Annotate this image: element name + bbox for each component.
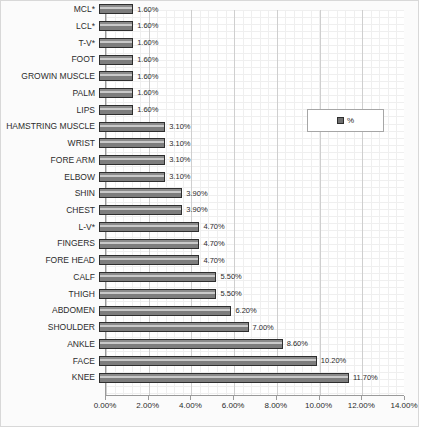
bar-row: CHEST3.90% bbox=[1, 202, 420, 219]
bar-row: FORE ARM3.10% bbox=[1, 152, 420, 169]
bar-zone: 3.90% bbox=[99, 202, 416, 219]
bar-zone: 8.60% bbox=[99, 336, 416, 353]
bar[interactable] bbox=[99, 322, 249, 332]
bar[interactable] bbox=[99, 339, 283, 349]
category-label: KNEE bbox=[1, 373, 99, 382]
bar-value-label: 5.50% bbox=[220, 273, 241, 281]
bar-zone: 3.10% bbox=[99, 135, 416, 152]
x-tick-labels: 0.00%2.00%4.00%6.00%8.00%10.00%12.00%14.… bbox=[1, 402, 420, 416]
bar-row: KNEE11.70% bbox=[1, 369, 420, 386]
category-label: CHEST bbox=[1, 206, 99, 215]
bar[interactable] bbox=[99, 373, 349, 383]
category-label: HAMSTRING MUSCLE bbox=[1, 122, 99, 131]
bar-zone: 1.60% bbox=[99, 85, 416, 102]
x-tick-label: 10.00% bbox=[305, 402, 332, 410]
bar[interactable] bbox=[99, 21, 133, 31]
bar-value-label: 1.60% bbox=[137, 106, 158, 114]
x-tick bbox=[105, 396, 106, 400]
bar-zone: 5.50% bbox=[99, 269, 416, 286]
bar-value-label: 4.70% bbox=[203, 240, 224, 248]
x-tick bbox=[190, 396, 191, 400]
bar-row: PALM1.60% bbox=[1, 85, 420, 102]
legend-swatch-icon bbox=[337, 117, 344, 124]
bar-value-label: 10.20% bbox=[321, 357, 346, 365]
bar-row: T-V*1.60% bbox=[1, 34, 420, 51]
bar[interactable] bbox=[99, 306, 231, 316]
bar[interactable] bbox=[99, 38, 133, 48]
bar-zone: 4.70% bbox=[99, 252, 416, 269]
x-tick bbox=[233, 396, 234, 400]
x-tick-label: 12.00% bbox=[348, 402, 375, 410]
x-tick-label: 0.00% bbox=[94, 402, 117, 410]
bar-zone: 1.60% bbox=[99, 34, 416, 51]
x-tick-label: 6.00% bbox=[222, 402, 245, 410]
category-label: FOOT bbox=[1, 55, 99, 64]
bar[interactable] bbox=[99, 105, 133, 115]
bar[interactable] bbox=[99, 188, 182, 198]
bar-value-label: 1.60% bbox=[137, 73, 158, 81]
bar-value-label: 6.20% bbox=[235, 307, 256, 315]
category-label: ABDOMEN bbox=[1, 306, 99, 315]
bar[interactable] bbox=[99, 138, 165, 148]
category-label: WRIST bbox=[1, 139, 99, 148]
bar-value-label: 7.00% bbox=[253, 324, 274, 332]
category-label: GROWIN MUSCLE bbox=[1, 72, 99, 81]
bar[interactable] bbox=[99, 356, 317, 366]
bar[interactable] bbox=[99, 255, 199, 265]
bar-zone: 6.20% bbox=[99, 302, 416, 319]
bar-value-label: 4.70% bbox=[203, 223, 224, 231]
bar-value-label: 3.90% bbox=[186, 206, 207, 214]
bar-row: FACE10.20% bbox=[1, 353, 420, 370]
bar[interactable] bbox=[99, 272, 216, 282]
bar-value-label: 1.60% bbox=[137, 39, 158, 47]
bar-value-label: 1.60% bbox=[137, 56, 158, 64]
bar-zone: 3.10% bbox=[99, 168, 416, 185]
x-tick bbox=[148, 396, 149, 400]
bar-row: CALF5.50% bbox=[1, 269, 420, 286]
bar[interactable] bbox=[99, 289, 216, 299]
bar[interactable] bbox=[99, 71, 133, 81]
bar-row: WRIST3.10% bbox=[1, 135, 420, 152]
bar-zone: 1.60% bbox=[99, 1, 416, 18]
bar-value-label: 8.60% bbox=[287, 340, 308, 348]
bar-value-label: 3.10% bbox=[169, 123, 190, 131]
bar-value-label: 3.10% bbox=[169, 140, 190, 148]
bar-value-label: 1.60% bbox=[137, 6, 158, 14]
bar[interactable] bbox=[99, 205, 182, 215]
bar[interactable] bbox=[99, 55, 133, 65]
category-label: FACE bbox=[1, 357, 99, 366]
bar[interactable] bbox=[99, 222, 199, 232]
bar[interactable] bbox=[99, 239, 199, 249]
bar-row: FOOT1.60% bbox=[1, 51, 420, 68]
bar-value-label: 3.10% bbox=[169, 173, 190, 181]
bar[interactable] bbox=[99, 122, 165, 132]
bar-row: THIGH5.50% bbox=[1, 286, 420, 303]
bar-row: GROWIN MUSCLE1.60% bbox=[1, 68, 420, 85]
chart-legend: % bbox=[307, 109, 384, 132]
bar[interactable] bbox=[99, 172, 165, 182]
bar[interactable] bbox=[99, 88, 133, 98]
bar-row: FINGERS4.70% bbox=[1, 235, 420, 252]
bar[interactable] bbox=[99, 4, 133, 14]
category-label: PALM bbox=[1, 89, 99, 98]
category-label: LIPS bbox=[1, 106, 99, 115]
category-label: THIGH bbox=[1, 290, 99, 299]
bar-value-label: 4.70% bbox=[203, 257, 224, 265]
bar[interactable] bbox=[99, 155, 165, 165]
category-label: T-V* bbox=[1, 39, 99, 48]
bar-chart: MCL*1.60%LCL*1.60%T-V*1.60%FOOT1.60%GROW… bbox=[0, 0, 419, 427]
bar-zone: 10.20% bbox=[99, 353, 416, 370]
x-tick-label: 8.00% bbox=[265, 402, 288, 410]
category-label: L-V* bbox=[1, 223, 99, 232]
x-tick bbox=[361, 396, 362, 400]
bar-row: FORE HEAD4.70% bbox=[1, 252, 420, 269]
category-label: ELBOW bbox=[1, 173, 99, 182]
bar-row: SHIN3.90% bbox=[1, 185, 420, 202]
bar-value-label: 5.50% bbox=[220, 290, 241, 298]
bar-zone: 3.10% bbox=[99, 152, 416, 169]
bar-zone: 4.70% bbox=[99, 235, 416, 252]
legend-label: % bbox=[347, 117, 354, 125]
bar-zone: 1.60% bbox=[99, 51, 416, 68]
category-label: LCL* bbox=[1, 22, 99, 31]
x-tick bbox=[276, 396, 277, 400]
